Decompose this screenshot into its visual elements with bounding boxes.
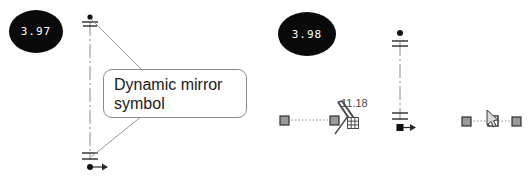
callout-line-2: symbol	[114, 94, 237, 113]
centerline-right	[384, 28, 428, 138]
mirror-distance-label: 11.18	[341, 97, 368, 109]
callout-line-1: Dynamic mirror	[114, 75, 237, 94]
value-badge-left: 3.97	[9, 10, 63, 53]
grip-chain-square-right	[512, 117, 521, 126]
grid-icon[interactable]	[347, 117, 360, 130]
grip-chain-square-left	[462, 117, 471, 126]
centerline-right-bottom-grip	[397, 124, 404, 131]
value-badge-left-text: 3.97	[21, 25, 52, 38]
centerline-right-top-dot	[397, 30, 403, 36]
callout-leader-upper	[91, 19, 142, 70]
callout-balloon[interactable]: Dynamic mirror symbol	[103, 69, 247, 118]
value-badge-right: 3.98	[278, 12, 336, 56]
mirror-grip-right	[330, 116, 339, 125]
callout-leader-lower	[91, 116, 142, 157]
cad-sketch-figure: 3.97 Dynamic mirror symbol	[0, 0, 529, 178]
mirror-grip-left	[280, 116, 289, 125]
arrow-right-icon-right	[410, 124, 416, 131]
grip-chain-group[interactable]	[460, 108, 525, 136]
value-badge-right-text: 3.98	[292, 28, 323, 41]
